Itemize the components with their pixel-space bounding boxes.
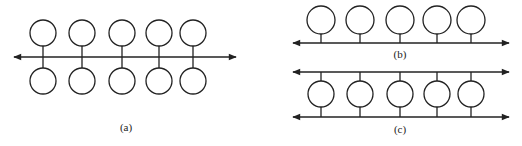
panel-b bbox=[293, 6, 509, 43]
label-b: (b) bbox=[394, 48, 407, 61]
nodes-top-a bbox=[30, 20, 206, 57]
label-a: (a) bbox=[120, 121, 133, 134]
label-c: (c) bbox=[394, 123, 407, 136]
panel-c bbox=[293, 72, 509, 117]
bus-topology-diagram: (a) (b) (c) bbox=[0, 0, 522, 146]
panel-a bbox=[14, 20, 236, 94]
nodes-bottom-a bbox=[30, 57, 206, 94]
